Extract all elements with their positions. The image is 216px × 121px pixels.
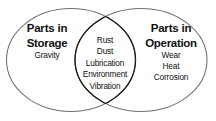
left-set-item: Gravity [14,50,80,61]
right-set-item: Heat [137,61,205,72]
right-set-item: Corrosion [137,72,205,83]
left-set-title-line1: Parts in [14,22,80,36]
right-set-title-line1: Parts in [137,22,205,36]
intersection-item: Dust [73,46,137,57]
intersection-item: Vibration [73,81,137,92]
right-set-item: Wear [137,50,205,61]
intersection-item: Rust [73,35,137,46]
intersection-label-group: Rust Dust Lubrication Environment Vibrat… [73,35,137,92]
left-set-title-line2: Storage [14,36,80,50]
venn-text-layer: Parts in Storage Gravity Rust Dust Lubri… [0,0,216,121]
left-set-label-group: Parts in Storage Gravity [14,22,80,61]
intersection-item: Lubrication [73,58,137,69]
right-set-title-line2: Operation [137,36,205,50]
intersection-item: Environment [73,69,137,80]
right-set-label-group: Parts in Operation Wear Heat Corrosion [137,22,205,83]
venn-diagram-canvas: Parts in Storage Gravity Rust Dust Lubri… [0,0,216,121]
